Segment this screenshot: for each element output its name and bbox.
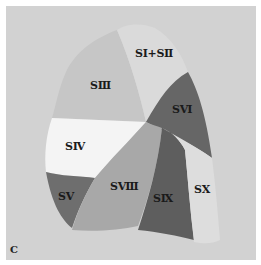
panel-label: C: [10, 244, 18, 255]
label-s4: SⅣ: [65, 140, 85, 153]
label-s5: SⅤ: [58, 190, 74, 203]
label-s8: SⅧ: [110, 180, 138, 193]
lung-segment-model: [0, 0, 261, 265]
label-s6: SⅥ: [172, 103, 192, 116]
label-s10: SⅩ: [194, 183, 210, 196]
label-s3: SⅢ: [90, 79, 111, 92]
label-s9: SⅨ: [153, 192, 173, 205]
label-s1s2: SⅠ+SⅡ: [135, 47, 173, 60]
